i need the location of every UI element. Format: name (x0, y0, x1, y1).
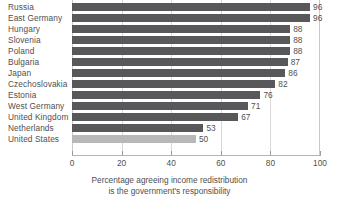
bar-row: 67 (72, 112, 320, 123)
bar-row: 88 (72, 24, 320, 35)
category-label: United Kingdom (8, 112, 68, 123)
category-label: Bulgaria (8, 57, 39, 68)
category-label: Czechoslovakia (8, 79, 68, 90)
bar-value-label: 96 (313, 13, 322, 24)
bar (72, 124, 203, 132)
tick-label-20: 20 (117, 158, 126, 168)
bar-value-label: 76 (263, 90, 272, 101)
category-label: Slovenia (8, 35, 41, 46)
tick-mark-60 (221, 151, 222, 155)
bar (72, 113, 238, 121)
tick-label-0: 0 (70, 158, 75, 168)
category-label: Hungary (8, 24, 40, 35)
bar (72, 14, 310, 22)
tick-mark-80 (270, 151, 271, 155)
bar-row: 50 (72, 134, 320, 145)
bar-row: 88 (72, 35, 320, 46)
tick-label-80: 80 (266, 158, 275, 168)
bar-value-label: 88 (293, 46, 302, 57)
tick-label-60: 60 (216, 158, 225, 168)
bar-value-label: 86 (288, 68, 297, 79)
bar-value-label: 87 (291, 57, 300, 68)
bar-value-label: 88 (293, 24, 302, 35)
bar-value-label: 88 (293, 35, 302, 46)
category-label: Estonia (8, 90, 36, 101)
tick-mark-0 (72, 151, 73, 155)
bar-value-label: 82 (278, 79, 287, 90)
x-axis-ticks: 020406080100 (72, 155, 321, 173)
tick-mark-40 (171, 151, 172, 155)
category-label: East Germany (8, 13, 62, 24)
category-label: West Germany (8, 101, 64, 112)
caption-line-1: Percentage agreeing income redistributio… (0, 175, 339, 186)
caption-line-2: is the government's responsibility (0, 186, 339, 197)
bar-row: 88 (72, 46, 320, 57)
bar (72, 47, 290, 55)
bar-row: 96 (72, 13, 320, 24)
category-label: Japan (8, 68, 31, 79)
bar-value-label: 67 (241, 112, 250, 123)
bar-row: 71 (72, 101, 320, 112)
category-axis-labels: RussiaEast GermanyHungarySloveniaPolandB… (0, 0, 68, 155)
chart-caption: Percentage agreeing income redistributio… (0, 175, 339, 197)
bar-chart: RussiaEast GermanyHungarySloveniaPolandB… (0, 0, 339, 199)
bar-row: 76 (72, 90, 320, 101)
tick-mark-100 (320, 151, 321, 155)
bar (72, 58, 288, 66)
tick-label-40: 40 (167, 158, 176, 168)
bar (72, 91, 260, 99)
tick-mark-20 (122, 151, 123, 155)
bar (72, 69, 285, 77)
bar (72, 135, 196, 143)
category-label: United States (8, 134, 59, 145)
bar (72, 80, 275, 88)
bar-value-label: 96 (313, 2, 322, 13)
category-label: Poland (8, 46, 34, 57)
category-label: Russia (8, 2, 34, 13)
bar-row: 87 (72, 57, 320, 68)
bar-row: 82 (72, 79, 320, 90)
bar-value-label: 50 (199, 134, 208, 145)
bar (72, 25, 290, 33)
category-label: Netherlands (8, 123, 54, 134)
bar-row: 96 (72, 2, 320, 13)
bar-value-label: 53 (206, 123, 215, 134)
plot-area: 96968888888786827671675350 (72, 0, 320, 155)
bar (72, 3, 310, 11)
bar-row: 53 (72, 123, 320, 134)
bar (72, 36, 290, 44)
tick-label-100: 100 (313, 158, 327, 168)
bar-row: 86 (72, 68, 320, 79)
bar-value-label: 71 (251, 101, 260, 112)
bar (72, 102, 248, 110)
